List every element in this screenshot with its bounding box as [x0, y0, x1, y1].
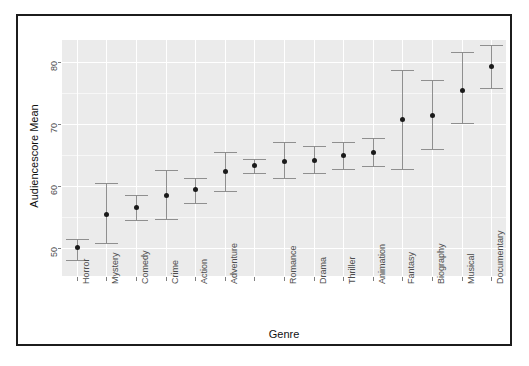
- error-bar-cap: [243, 159, 266, 160]
- x-tick-mark: [77, 277, 78, 281]
- error-bar-cap: [95, 183, 118, 184]
- error-bar-cap: [362, 166, 385, 167]
- grid-line-vertical: [166, 40, 167, 276]
- x-tick-mark: [136, 277, 137, 281]
- error-bar-cap: [451, 123, 474, 124]
- grid-line-vertical: [136, 40, 137, 276]
- error-bar-cap: [273, 142, 296, 143]
- data-point[interactable]: [75, 245, 80, 250]
- error-bar-cap: [480, 45, 503, 46]
- x-tick-mark: [284, 277, 285, 281]
- x-tick-label: Drama: [318, 257, 328, 284]
- x-tick-label: Thriller: [347, 256, 357, 284]
- error-bar-cap: [155, 170, 178, 171]
- error-bar-cap: [332, 142, 355, 143]
- x-tick-label: Biography: [436, 243, 446, 284]
- x-tick-mark: [225, 277, 226, 281]
- y-tick-label: 70: [49, 123, 59, 163]
- error-bar-cap: [243, 173, 266, 174]
- x-tick-mark: [462, 277, 463, 281]
- x-tick-label: Mystery: [110, 253, 120, 285]
- grid-line-vertical: [432, 40, 433, 276]
- error-bar-cap: [95, 243, 118, 244]
- x-tick-mark: [314, 277, 315, 281]
- x-tick-label: Documentary: [495, 230, 505, 284]
- error-bar-cap: [451, 52, 474, 53]
- x-tick-label: Romance: [288, 245, 298, 284]
- y-tick-label: 60: [49, 185, 59, 225]
- error-bar-cap: [480, 88, 503, 89]
- figure-frame: 50607080 HorrorMysteryComedyCrimeActionA…: [16, 14, 512, 346]
- error-bar-cap: [391, 70, 414, 71]
- data-point[interactable]: [312, 158, 317, 163]
- x-tick-label: Comedy: [140, 250, 150, 284]
- x-tick-label: Action: [199, 259, 209, 284]
- x-tick-label: Musical: [466, 253, 476, 284]
- x-tick-mark: [373, 277, 374, 281]
- x-tick-mark: [195, 277, 196, 281]
- data-point[interactable]: [223, 169, 228, 174]
- x-axis-title: Genre: [62, 328, 506, 340]
- y-tick-label: 80: [49, 61, 59, 101]
- x-tick-mark: [343, 277, 344, 281]
- x-tick-mark: [402, 277, 403, 281]
- x-tick-mark: [254, 277, 255, 281]
- x-tick-label: Horror: [81, 258, 91, 284]
- x-tick-mark: [432, 277, 433, 281]
- error-bar-cap: [125, 220, 148, 221]
- x-tick-label: Crime: [170, 260, 180, 284]
- error-bar-cap: [332, 169, 355, 170]
- x-tick-label: Adventure: [229, 243, 239, 284]
- error-bar-cap: [391, 169, 414, 170]
- error-bar-cap: [184, 178, 207, 179]
- error-bar-cap: [421, 149, 444, 150]
- x-tick-mark: [166, 277, 167, 281]
- y-tick-label: 50: [49, 247, 59, 287]
- data-point[interactable]: [430, 113, 435, 118]
- error-bar-cap: [362, 138, 385, 139]
- grid-line-vertical: [195, 40, 196, 276]
- error-bar-cap: [155, 219, 178, 220]
- error-bar-cap: [273, 178, 296, 179]
- x-tick-label: Animation: [377, 244, 387, 284]
- error-bar-cap: [214, 191, 237, 192]
- error-bar-cap: [303, 146, 326, 147]
- data-point[interactable]: [460, 88, 465, 93]
- x-tick-label: Fantasy: [406, 252, 416, 284]
- x-tick-mark: [106, 277, 107, 281]
- error-bar-cap: [125, 195, 148, 196]
- x-tick-mark: [491, 277, 492, 281]
- error-bar-cap: [303, 173, 326, 174]
- data-point[interactable]: [164, 193, 169, 198]
- y-axis-title: Audiencescore Mean: [28, 96, 40, 216]
- error-bar-cap: [66, 239, 89, 240]
- error-bar-cap: [421, 80, 444, 81]
- error-bar-cap: [184, 203, 207, 204]
- error-bar-cap: [214, 152, 237, 153]
